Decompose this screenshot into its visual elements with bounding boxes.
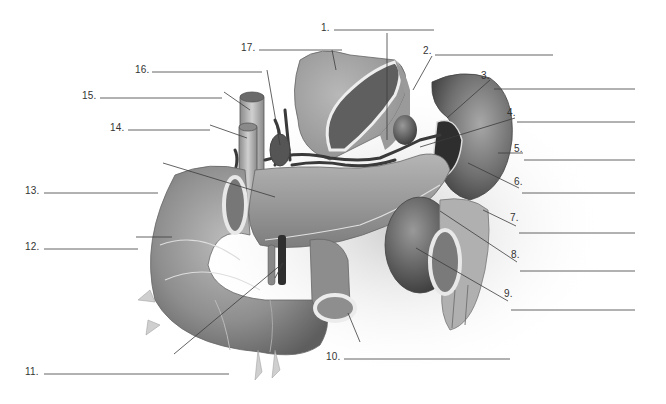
label-10: 10.	[326, 352, 341, 362]
label-2: 2.	[423, 46, 432, 56]
label-13: 13.	[25, 186, 40, 196]
label-4: 4.	[507, 108, 516, 118]
anatomy-diagram: 1. 2. 3. 4. 5. 6. 7. 8. 9. 10. 11. 12. 1…	[0, 0, 666, 404]
label-3: 3.	[481, 71, 490, 81]
label-1: 1.	[321, 23, 330, 33]
label-8: 8.	[511, 250, 520, 260]
label-7: 7.	[510, 213, 519, 223]
label-9: 9.	[504, 289, 513, 299]
label-12: 12.	[25, 242, 40, 252]
label-14: 14.	[110, 123, 125, 133]
label-15: 15.	[82, 91, 97, 101]
label-11: 11.	[25, 367, 39, 377]
adrenal	[393, 115, 417, 145]
label-16: 16.	[135, 65, 150, 75]
label-6: 6.	[514, 177, 523, 187]
label-5: 5.	[514, 144, 523, 154]
label-17: 17.	[241, 43, 256, 53]
